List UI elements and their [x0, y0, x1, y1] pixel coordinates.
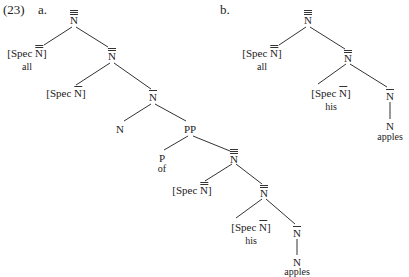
tree-b-label: b.	[220, 4, 230, 16]
tree-a-head-n: N	[116, 123, 124, 135]
tree-b-spec-nbar2-all: [Spec N]	[242, 47, 281, 59]
tree-a-spec-nbar1: [Spec N]	[46, 87, 85, 99]
word-his-b: his	[325, 101, 337, 113]
tree-a-nbar3-lower-node: N	[230, 153, 238, 165]
syntax-tree-figure: (23) a. b. N [Spec N] all N [Spec N] N N…	[0, 0, 409, 277]
word-all-b: all	[257, 61, 267, 73]
tree-a-root-node: N	[70, 14, 78, 26]
tree-a-nbar2-node: N	[108, 50, 116, 62]
tree-a-label: a.	[38, 4, 47, 16]
tree-a-nbar1-node: N	[149, 91, 157, 103]
word-of: of	[158, 163, 166, 175]
word-apples-b: apples	[377, 131, 403, 143]
tree-a-lower-nbar2-node: N	[260, 187, 268, 199]
tree-branches	[0, 0, 409, 277]
tree-a-pp-node: PP	[184, 123, 196, 135]
tree-a-spec-nbar2-all: [Spec N]	[7, 47, 46, 59]
word-apples: apples	[284, 266, 310, 277]
tree-b-root-node: N	[304, 14, 312, 26]
example-number: (23)	[3, 4, 25, 16]
tree-b-spec-nbar1-his: [Spec N]	[311, 87, 350, 99]
word-all: all	[22, 61, 32, 73]
tree-b-nbar1-node: N	[386, 90, 394, 102]
tree-a-lower-spec-nbar1-his: [Spec N]	[231, 221, 270, 233]
tree-a-lower-nbar1-node: N	[293, 227, 301, 239]
tree-a-lower-spec-nbar2: [Spec N]	[172, 184, 211, 196]
word-his: his	[245, 235, 257, 247]
tree-b-nbar2-node: N	[344, 52, 352, 64]
